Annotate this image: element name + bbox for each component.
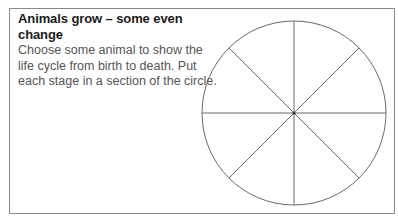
life-cycle-circle <box>0 0 398 220</box>
center-dot <box>293 112 296 115</box>
